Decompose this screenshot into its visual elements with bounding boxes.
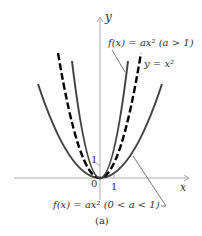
- label-base: y = x²: [144, 58, 174, 69]
- leader-narrow: [112, 50, 125, 72]
- figure-caption: (a): [95, 215, 109, 226]
- label-wide: f(x) = ax² (0 < a < 1): [53, 199, 160, 210]
- label-narrow: f(x) = ax² (a > 1): [108, 37, 194, 48]
- y-tick-label: 1: [91, 154, 97, 165]
- x-axis-label: x: [180, 181, 186, 194]
- y-axis-label: y: [105, 10, 112, 24]
- x-tick-label: 1: [111, 181, 117, 192]
- origin-label: 0: [91, 178, 97, 189]
